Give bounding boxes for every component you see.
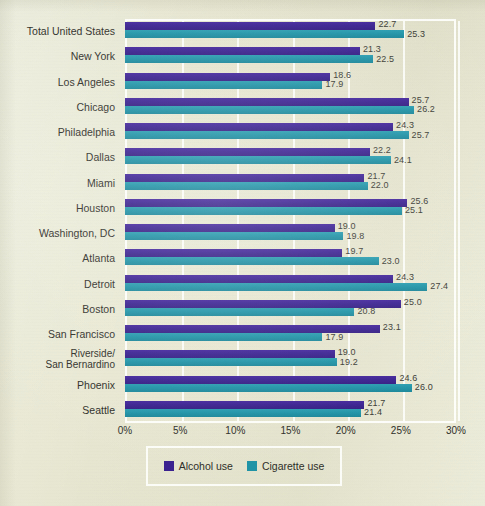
category-label: Phoenix <box>0 373 120 398</box>
bar-cigarette[interactable] <box>125 308 354 316</box>
bar-alcohol[interactable] <box>125 123 393 131</box>
bar-cigarette[interactable] <box>125 409 361 417</box>
bar-value-label-cigarette: 17.9 <box>325 332 343 342</box>
bar-cigarette[interactable] <box>125 106 414 114</box>
bars-container: 22.725.321.322.518.617.925.726.224.325.7… <box>125 19 456 423</box>
category-label: San Francisco <box>0 322 120 347</box>
category-label: New York <box>0 44 120 69</box>
bar-cigarette[interactable] <box>125 182 368 190</box>
bar-alcohol[interactable] <box>125 224 335 232</box>
category-label: Houston <box>0 196 120 221</box>
chart-page: Total United StatesNew YorkLos AngelesCh… <box>0 0 485 506</box>
bar-cigarette[interactable] <box>125 156 391 164</box>
bar-value-label-alcohol: 25.7 <box>412 95 430 105</box>
bar-cigarette[interactable] <box>125 131 409 139</box>
x-tick-label: 30% <box>446 425 466 436</box>
bar-alcohol[interactable] <box>125 98 409 106</box>
bar-value-label-alcohol: 23.1 <box>383 322 401 332</box>
gridline-30% <box>458 21 460 421</box>
bar-value-label-cigarette: 23.0 <box>382 256 400 266</box>
category-label: Miami <box>0 171 120 196</box>
category-label: Los Angeles <box>0 70 120 95</box>
bar-value-label-alcohol: 19.7 <box>345 246 363 256</box>
bar-cigarette[interactable] <box>125 283 427 291</box>
legend-swatch-alcohol-icon <box>164 461 174 471</box>
bar-group: 22.725.3 <box>125 19 456 44</box>
bar-alcohol[interactable] <box>125 73 330 81</box>
bar-value-label-cigarette: 26.0 <box>415 382 433 392</box>
legend-item-cigarette[interactable]: Cigarette use <box>247 460 324 472</box>
bar-cigarette[interactable] <box>125 257 379 265</box>
category-label: Riverside/ San Bernardino <box>0 347 120 372</box>
bar-value-label-cigarette: 22.0 <box>371 180 389 190</box>
bar-value-label-alcohol: 21.7 <box>367 398 385 408</box>
bar-value-label-cigarette: 25.1 <box>405 205 423 215</box>
category-label: Atlanta <box>0 246 120 271</box>
bar-value-label-cigarette: 19.8 <box>346 231 364 241</box>
bar-group: 24.626.0 <box>125 373 456 398</box>
bar-value-label-alcohol: 21.7 <box>367 171 385 181</box>
chart-legend: Alcohol use Cigarette use <box>146 446 342 486</box>
category-label: Chicago <box>0 95 120 120</box>
bar-alcohol[interactable] <box>125 401 364 409</box>
bar-value-label-alcohol: 19.0 <box>338 221 356 231</box>
bar-cigarette[interactable] <box>125 358 337 366</box>
bar-alcohol[interactable] <box>125 148 370 156</box>
bar-alcohol[interactable] <box>125 350 335 358</box>
bar-group: 19.019.8 <box>125 221 456 246</box>
bar-group: 21.721.4 <box>125 398 456 423</box>
x-tick-label: 5% <box>173 425 187 436</box>
bar-value-label-cigarette: 24.1 <box>394 155 412 165</box>
x-tick-label: 15% <box>280 425 300 436</box>
bar-alcohol[interactable] <box>125 249 342 257</box>
bar-group: 25.625.1 <box>125 196 456 221</box>
bar-value-label-alcohol: 24.6 <box>399 373 417 383</box>
bar-cigarette[interactable] <box>125 81 322 89</box>
bar-alcohol[interactable] <box>125 22 375 30</box>
bar-group: 21.322.5 <box>125 44 456 69</box>
bar-group: 23.117.9 <box>125 322 456 347</box>
category-label: Washington, DC <box>0 221 120 246</box>
bar-group: 24.325.7 <box>125 120 456 145</box>
bar-alcohol[interactable] <box>125 275 393 283</box>
x-tick-label: 10% <box>225 425 245 436</box>
bar-cigarette[interactable] <box>125 384 412 392</box>
bar-group: 25.726.2 <box>125 95 456 120</box>
bar-group: 18.617.9 <box>125 70 456 95</box>
category-label: Philadelphia <box>0 120 120 145</box>
x-tick-label: 0% <box>118 425 132 436</box>
bar-cigarette[interactable] <box>125 207 402 215</box>
legend-label-cigarette: Cigarette use <box>262 460 324 472</box>
bar-value-label-alcohol: 21.3 <box>363 44 381 54</box>
x-axis-ticks: 0%5%10%15%20%25%30% <box>125 425 456 441</box>
bar-value-label-alcohol: 19.0 <box>338 347 356 357</box>
bar-alcohol[interactable] <box>125 47 360 55</box>
bar-value-label-cigarette: 25.7 <box>412 130 430 140</box>
bar-cigarette[interactable] <box>125 30 404 38</box>
bar-value-label-alcohol: 22.7 <box>378 19 396 29</box>
bar-value-label-cigarette: 22.5 <box>376 54 394 64</box>
legend-item-alcohol[interactable]: Alcohol use <box>164 460 233 472</box>
category-label: Boston <box>0 297 120 322</box>
bar-value-label-cigarette: 27.4 <box>430 281 448 291</box>
x-tick-label: 20% <box>336 425 356 436</box>
bar-cigarette[interactable] <box>125 232 343 240</box>
bar-group: 19.019.2 <box>125 347 456 372</box>
bar-alcohol[interactable] <box>125 376 396 384</box>
bar-alcohol[interactable] <box>125 174 364 182</box>
bar-cigarette[interactable] <box>125 333 322 341</box>
bar-cigarette[interactable] <box>125 55 373 63</box>
legend-label-alcohol: Alcohol use <box>179 460 233 472</box>
bar-group: 21.722.0 <box>125 171 456 196</box>
category-label: Dallas <box>0 145 120 170</box>
bar-value-label-cigarette: 19.2 <box>340 357 358 367</box>
bar-value-label-alcohol: 24.3 <box>396 272 414 282</box>
bar-value-label-alcohol: 22.2 <box>373 145 391 155</box>
bar-group: 25.020.8 <box>125 297 456 322</box>
bar-value-label-alcohol: 25.6 <box>410 196 428 206</box>
bar-value-label-cigarette: 25.3 <box>407 29 425 39</box>
x-tick-label: 25% <box>391 425 411 436</box>
legend-swatch-cigarette-icon <box>247 461 257 471</box>
bar-group: 22.224.1 <box>125 145 456 170</box>
bar-alcohol[interactable] <box>125 199 407 207</box>
